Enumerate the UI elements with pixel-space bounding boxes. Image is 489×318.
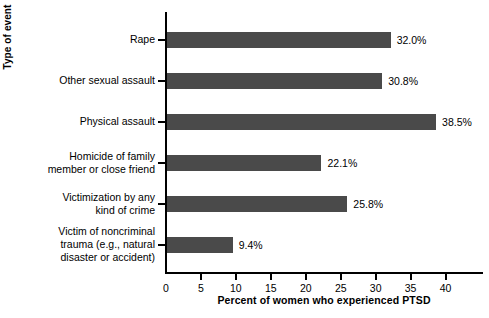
category-tick bbox=[158, 244, 165, 246]
bar-value-label: 30.8% bbox=[388, 74, 418, 88]
bar-value-label: 25.8% bbox=[353, 197, 383, 211]
x-tick-label: 35 bbox=[396, 282, 426, 294]
bar bbox=[167, 196, 347, 212]
bar-value-label: 22.1% bbox=[327, 156, 357, 170]
x-tick-label: 25 bbox=[326, 282, 356, 294]
category-label: Rape bbox=[5, 33, 155, 46]
bar bbox=[167, 73, 382, 89]
x-axis-line bbox=[165, 272, 483, 274]
bar-row: Rape32.0% bbox=[165, 20, 483, 61]
bar bbox=[167, 237, 233, 253]
x-tick-label: 30 bbox=[361, 282, 391, 294]
bar-value-label: 38.5% bbox=[442, 115, 472, 129]
x-tick bbox=[200, 274, 202, 280]
bar-value-label: 32.0% bbox=[397, 33, 427, 47]
bar bbox=[167, 114, 436, 130]
bar-row: Other sexual assault30.8% bbox=[165, 61, 483, 102]
category-label: Victim of noncriminal trauma (e.g., natu… bbox=[5, 225, 155, 264]
x-tick bbox=[340, 274, 342, 280]
bar bbox=[167, 32, 391, 48]
x-tick bbox=[270, 274, 272, 280]
x-tick bbox=[375, 274, 377, 280]
plot-area: Rape32.0%Other sexual assault30.8%Physic… bbox=[165, 12, 483, 272]
category-tick bbox=[158, 39, 165, 41]
x-tick bbox=[305, 274, 307, 280]
bar bbox=[167, 155, 321, 171]
category-tick bbox=[158, 203, 165, 205]
bar-row: Homicide of family member or close frien… bbox=[165, 143, 483, 184]
bar-row: Victimization by any kind of crime25.8% bbox=[165, 184, 483, 225]
x-tick-label: 20 bbox=[291, 282, 321, 294]
category-tick bbox=[158, 80, 165, 82]
bar-row: Physical assault38.5% bbox=[165, 102, 483, 143]
x-tick bbox=[445, 274, 447, 280]
x-tick-label: 40 bbox=[431, 282, 461, 294]
category-label: Physical assault bbox=[5, 115, 155, 128]
x-axis-title: Percent of women who experienced PTSD bbox=[165, 294, 483, 306]
category-label: Other sexual assault bbox=[5, 74, 155, 87]
x-tick-label: 15 bbox=[256, 282, 286, 294]
category-label: Victimization by any kind of crime bbox=[5, 191, 155, 217]
x-tick bbox=[410, 274, 412, 280]
category-label: Homicide of family member or close frien… bbox=[5, 150, 155, 176]
category-tick bbox=[158, 121, 165, 123]
ptsd-bar-chart: Type of event Rape32.0%Other sexual assa… bbox=[0, 0, 489, 318]
category-tick bbox=[158, 162, 165, 164]
bar-value-label: 9.4% bbox=[239, 238, 263, 252]
x-tick-label: 10 bbox=[221, 282, 251, 294]
x-tick-label: 5 bbox=[186, 282, 216, 294]
x-tick-label: 0 bbox=[151, 282, 181, 294]
x-tick bbox=[235, 274, 237, 280]
bar-row: Victim of noncriminal trauma (e.g., natu… bbox=[165, 225, 483, 266]
